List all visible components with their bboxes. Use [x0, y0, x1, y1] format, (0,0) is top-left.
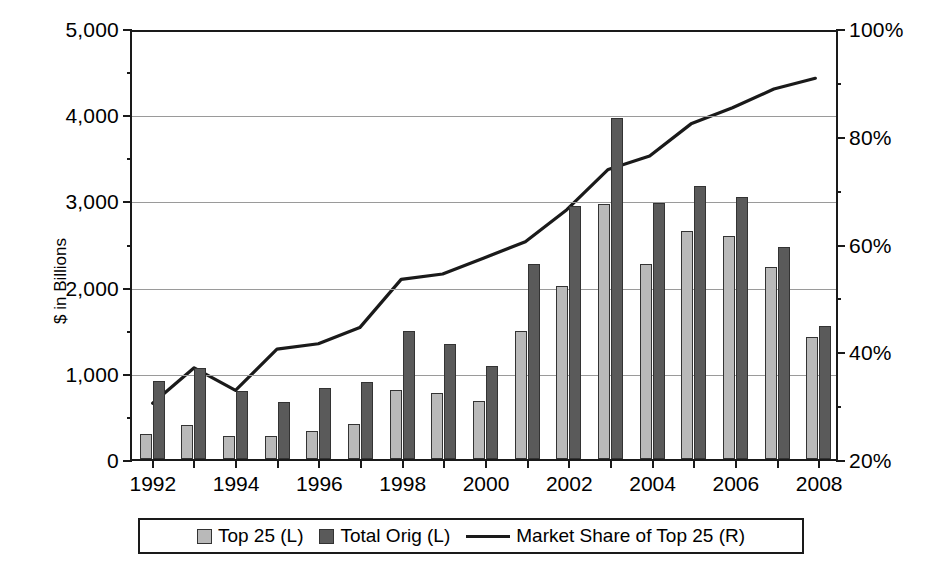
bar-total-orig — [819, 326, 831, 459]
bar-top25 — [348, 424, 360, 459]
bar-total-orig — [778, 247, 790, 459]
y-axis-minor-tick — [127, 417, 132, 419]
legend-swatch-dark-icon — [319, 529, 334, 544]
bar-top25 — [723, 236, 735, 459]
bar-top25 — [806, 337, 818, 459]
bar-total-orig — [403, 331, 415, 459]
x-axis-tick — [360, 459, 362, 468]
y-axis-right-label: 40% — [849, 341, 892, 365]
bar-total-orig — [736, 197, 748, 459]
legend-line-icon — [466, 535, 510, 538]
y-axis-minor-tick — [127, 72, 132, 74]
y-axis-right-tick — [836, 460, 845, 462]
bar-top25 — [473, 401, 485, 459]
bar-top25 — [431, 393, 443, 459]
y-axis-right-label: 100% — [849, 18, 904, 42]
x-axis-label: 1996 — [296, 472, 343, 496]
y-axis-label: 1,000 — [65, 363, 119, 387]
x-axis-tick — [318, 459, 320, 468]
plot-top-border — [132, 30, 836, 32]
y-axis-tick — [123, 201, 132, 203]
x-axis-label: 2002 — [546, 472, 593, 496]
x-axis-tick — [277, 459, 279, 468]
y-axis-label: 3,000 — [65, 190, 119, 214]
bar-top25 — [515, 331, 527, 459]
y-axis-tick — [123, 115, 132, 117]
x-axis-tick — [527, 459, 529, 468]
legend-item-total-orig: Total Orig (L) — [319, 525, 450, 547]
y-axis-label: 5,000 — [65, 18, 119, 42]
y-axis-tick — [123, 288, 132, 290]
bar-top25 — [390, 390, 402, 459]
bar-top25 — [640, 264, 652, 459]
bar-total-orig — [653, 203, 665, 459]
x-axis-label: 2004 — [629, 472, 676, 496]
x-axis-tick — [568, 459, 570, 468]
bar-top25 — [306, 431, 318, 459]
legend-label-total-orig: Total Orig (L) — [340, 525, 450, 547]
x-axis-tick — [818, 459, 820, 468]
y-axis-right-tick — [836, 137, 845, 139]
x-axis-tick — [402, 459, 404, 468]
bar-top25 — [265, 436, 277, 459]
legend-label-top25: Top 25 (L) — [218, 525, 304, 547]
y-axis-tick — [123, 374, 132, 376]
x-axis-label: 2000 — [463, 472, 510, 496]
bar-total-orig — [361, 382, 373, 459]
x-axis-label: 2006 — [713, 472, 760, 496]
y-axis-right-minor-tick — [836, 298, 841, 300]
chart-figure: $ in Billions 01,0002,0003,0004,0005,000… — [0, 0, 938, 561]
x-axis-label: 1998 — [379, 472, 426, 496]
bar-total-orig — [153, 381, 165, 459]
y-axis-minor-tick — [127, 245, 132, 247]
x-axis-tick — [235, 459, 237, 468]
bar-total-orig — [611, 118, 623, 459]
gridline — [132, 202, 836, 203]
bar-top25 — [556, 286, 568, 459]
plot-area: 01,0002,0003,0004,0005,00020%40%60%80%10… — [130, 30, 838, 461]
y-axis-right-minor-tick — [836, 406, 841, 408]
bar-top25 — [598, 204, 610, 459]
x-axis-tick — [485, 459, 487, 468]
y-axis-tick — [123, 29, 132, 31]
y-axis-right-minor-tick — [836, 191, 841, 193]
y-axis-right-tick — [836, 245, 845, 247]
bar-total-orig — [569, 206, 581, 459]
y-axis-label: 4,000 — [65, 104, 119, 128]
bar-total-orig — [236, 391, 248, 459]
y-axis-label: 2,000 — [65, 277, 119, 301]
y-axis-right-label: 20% — [849, 449, 892, 473]
x-axis-label: 2008 — [796, 472, 843, 496]
bar-total-orig — [444, 344, 456, 459]
bar-top25 — [140, 434, 152, 459]
market-share-polyline — [153, 78, 816, 403]
bar-total-orig — [528, 264, 540, 459]
x-axis-label: 1994 — [213, 472, 260, 496]
bar-top25 — [181, 425, 193, 459]
legend-label-market-share: Market Share of Top 25 (R) — [516, 525, 745, 547]
x-axis-tick — [152, 459, 154, 468]
y-axis-right-label: 60% — [849, 234, 892, 258]
y-axis-tick — [123, 460, 132, 462]
x-axis-label: 1992 — [129, 472, 176, 496]
y-axis-right-tick — [836, 29, 845, 31]
bar-total-orig — [278, 402, 290, 459]
bar-total-orig — [486, 366, 498, 459]
bar-total-orig — [319, 388, 331, 459]
x-axis-tick — [693, 459, 695, 468]
bar-top25 — [765, 267, 777, 459]
y-axis-right-tick — [836, 352, 845, 354]
bar-top25 — [681, 231, 693, 459]
x-axis-tick — [777, 459, 779, 468]
y-axis-minor-tick — [127, 158, 132, 160]
x-axis-tick — [735, 459, 737, 468]
bar-total-orig — [694, 186, 706, 459]
y-axis-label: 0 — [107, 449, 119, 473]
x-axis-tick — [610, 459, 612, 468]
x-axis-tick — [652, 459, 654, 468]
gridline — [132, 116, 836, 117]
bar-total-orig — [194, 368, 206, 459]
x-axis-tick — [443, 459, 445, 468]
legend-swatch-light-icon — [197, 529, 212, 544]
chart-legend: Top 25 (L) Total Orig (L) Market Share o… — [138, 518, 804, 554]
